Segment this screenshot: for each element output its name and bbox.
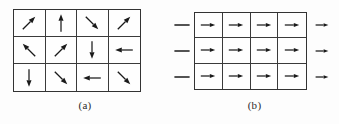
arrow-right-icon bbox=[312, 17, 332, 33]
grid-cell bbox=[109, 10, 141, 37]
dash-icon bbox=[172, 17, 192, 33]
grid-cell bbox=[251, 64, 279, 89]
grid-cell bbox=[195, 13, 223, 38]
arrow-right-icon bbox=[283, 41, 301, 59]
arrow-down-right-icon bbox=[81, 12, 103, 34]
grid-cell bbox=[46, 64, 78, 91]
vector-field-grid-a bbox=[13, 9, 141, 92]
grid-cell bbox=[77, 10, 109, 37]
arrow-left-icon bbox=[81, 67, 103, 89]
grid-cell bbox=[251, 13, 279, 38]
vector-field-grid-b bbox=[194, 12, 307, 90]
arrow-down-right-icon bbox=[113, 67, 135, 89]
arrow-right-icon bbox=[227, 16, 245, 34]
arrow-up-icon bbox=[50, 12, 72, 34]
arrow-right-icon bbox=[255, 41, 273, 59]
arrow-down-icon bbox=[18, 67, 40, 89]
panel-b-caption: (b) bbox=[170, 99, 339, 111]
grid-cell bbox=[223, 38, 251, 63]
arrow-left-icon bbox=[113, 39, 135, 61]
arrow-right-icon bbox=[255, 16, 273, 34]
grid-cell bbox=[77, 64, 109, 91]
arrow-down-icon bbox=[81, 39, 103, 61]
arrow-right-icon bbox=[283, 67, 301, 85]
arrow-right-icon bbox=[255, 67, 273, 85]
arrow-right-icon bbox=[312, 69, 332, 85]
grid-cell bbox=[14, 37, 46, 64]
arrow-right-icon bbox=[283, 16, 301, 34]
grid-cell bbox=[109, 64, 141, 91]
figure-canvas: (a) (b) bbox=[0, 0, 339, 124]
grid-cell bbox=[46, 37, 78, 64]
grid-cell bbox=[223, 64, 251, 89]
grid-cell bbox=[195, 64, 223, 89]
grid-cell bbox=[251, 38, 279, 63]
panel-a-caption: (a) bbox=[0, 99, 170, 111]
grid-cell bbox=[278, 13, 306, 38]
arrow-up-left-icon bbox=[18, 39, 40, 61]
grid-cell bbox=[278, 38, 306, 63]
grid-cell bbox=[14, 10, 46, 37]
grid-cell bbox=[77, 37, 109, 64]
arrow-up-right-icon bbox=[113, 12, 135, 34]
grid-cell bbox=[223, 13, 251, 38]
grid-cell bbox=[195, 38, 223, 63]
grid-cell bbox=[278, 64, 306, 89]
arrow-right-icon bbox=[227, 67, 245, 85]
arrow-up-right-icon bbox=[50, 39, 72, 61]
dash-icon bbox=[172, 69, 192, 85]
grid-cell bbox=[109, 37, 141, 64]
arrow-up-right-icon bbox=[18, 12, 40, 34]
arrow-right-icon bbox=[199, 16, 217, 34]
panel-a: (a) bbox=[0, 0, 170, 124]
arrow-right-icon bbox=[312, 43, 332, 59]
arrow-right-icon bbox=[199, 67, 217, 85]
panel-b: (b) bbox=[170, 0, 339, 124]
grid-cell bbox=[46, 10, 78, 37]
arrow-right-icon bbox=[199, 41, 217, 59]
arrow-right-icon bbox=[227, 41, 245, 59]
grid-cell bbox=[14, 64, 46, 91]
arrow-down-right-icon bbox=[50, 67, 72, 89]
dash-icon bbox=[172, 43, 192, 59]
